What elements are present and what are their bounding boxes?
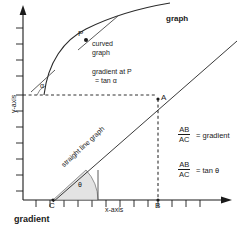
point-b-label: B <box>155 201 160 210</box>
equation-1-fraction: AB AC <box>178 125 190 144</box>
straight-line-graph-line <box>53 41 237 202</box>
point-a-label: A <box>161 93 166 102</box>
theta-angle-label: θ <box>78 181 82 189</box>
point-p-label: P <box>78 29 83 38</box>
equation-2-rhs: = tan θ <box>196 166 219 175</box>
curved-graph-label-line1: curved <box>92 40 113 48</box>
equation-1-denominator: AC <box>178 134 190 144</box>
point-p-marker <box>84 38 88 42</box>
equation-2-denominator: AC <box>178 169 190 179</box>
gradient-diagram: graph P curved graph gradient at P = tan… <box>0 0 244 229</box>
point-a-marker <box>156 97 159 100</box>
equation-1-numerator: AB <box>178 125 190 134</box>
equation-2-numerator: AB <box>178 160 190 169</box>
equation-1-rhs: = gradient <box>196 131 230 140</box>
bottom-gradient-label: gradient <box>14 214 50 224</box>
gradient-at-p-label-line2: = tan α <box>95 77 117 85</box>
equation-2-fraction: AB AC <box>178 160 190 179</box>
alpha-angle-label: α <box>40 82 44 90</box>
graph-label: graph <box>166 14 188 23</box>
gradient-at-p-label-line1: gradient at P <box>92 68 132 76</box>
x-axis-label: x-axis <box>105 206 123 214</box>
y-axis-label: y-axis <box>10 95 18 113</box>
x-axis-arrow-icon <box>221 197 232 204</box>
diagram-canvas <box>0 0 244 229</box>
point-c-label: C <box>49 201 55 210</box>
y-axis-arrow-icon <box>20 5 27 15</box>
curved-graph-label-line2: graph <box>92 49 110 57</box>
